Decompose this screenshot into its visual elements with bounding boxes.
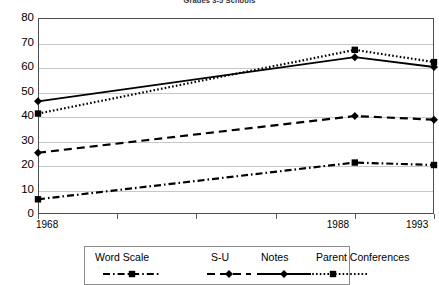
y-tick-label: 60 <box>0 61 34 73</box>
data-point-marker <box>34 149 42 157</box>
x-tick-label: 1988 <box>327 219 349 231</box>
data-point-marker <box>431 162 437 168</box>
chart-title: Grades 3-5 Schools <box>0 0 439 5</box>
y-tick-label: 70 <box>0 37 34 49</box>
data-point-marker <box>431 59 437 65</box>
series-line <box>38 116 434 153</box>
chart-legend: Word ScaleS-UNotesParent Conferences <box>84 246 350 285</box>
y-tick-label: 20 <box>0 159 34 171</box>
legend-labels: Word ScaleS-UNotesParent Conferences <box>85 250 349 266</box>
data-point-marker <box>430 116 438 124</box>
y-tick-label: 30 <box>0 135 34 147</box>
legend-swatch-word-scale <box>103 267 161 281</box>
series-overlay <box>38 18 434 214</box>
data-point-marker <box>351 112 359 120</box>
data-point-marker <box>34 97 42 105</box>
series-word-scale <box>35 159 437 202</box>
series-notes <box>34 53 438 105</box>
legend-label-parent-conferences: Parent Conferences <box>316 250 409 264</box>
legend-swatch-s-u <box>207 267 251 281</box>
y-tick-label: 0 <box>0 208 34 220</box>
data-point-marker <box>35 196 41 202</box>
data-point-marker <box>352 47 358 53</box>
x-tick-label: 1968 <box>36 219 58 231</box>
x-axis: 196819881993 <box>0 219 439 233</box>
legend-label-notes: Notes <box>261 250 288 264</box>
y-tick-label: 80 <box>0 12 34 24</box>
series-line <box>38 163 434 200</box>
data-point-marker <box>35 110 41 116</box>
legend-label-s-u: S-U <box>211 250 229 264</box>
data-point-marker <box>352 159 358 165</box>
y-tick-label: 10 <box>0 184 34 196</box>
legend-swatches <box>85 267 349 283</box>
series-line <box>38 57 434 101</box>
y-tick-label: 40 <box>0 110 34 122</box>
y-axis: 01020304050607080 <box>0 18 34 214</box>
legend-swatch-parent-conferences <box>297 267 369 281</box>
line-chart: Grades 3-5 Schools 01020304050607080 196… <box>0 0 439 285</box>
series-parent-conferences <box>35 47 437 117</box>
y-tick-label: 50 <box>0 86 34 98</box>
legend-label-word-scale: Word Scale <box>95 250 149 264</box>
series-s-u <box>34 112 438 157</box>
data-point-marker <box>351 53 359 61</box>
x-tick-label: 1993 <box>406 219 428 231</box>
